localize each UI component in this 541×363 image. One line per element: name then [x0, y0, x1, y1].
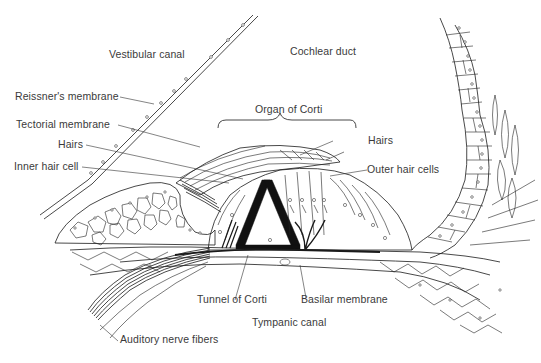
label-hairs-left: Hairs: [58, 139, 83, 150]
label-inner-hair-cell: Inner hair cell: [14, 161, 79, 172]
label-hairs-right: Hairs: [368, 135, 393, 146]
label-organ-of-corti: Organ of Corti: [255, 104, 322, 115]
label-reissners-membrane: Reissner's membrane: [15, 91, 119, 102]
label-auditory-nerve-fibers: Auditory nerve fibers: [120, 334, 218, 345]
label-tympanic-canal: Tympanic canal: [252, 317, 326, 328]
organ-of-corti-brace: [218, 113, 356, 128]
auditory-nerve-fibers-shape: [88, 248, 210, 338]
label-outer-hair-cells: Outer hair cells: [367, 164, 439, 175]
organ-of-corti-shape: [208, 168, 412, 250]
spiral-ligament-shape: [412, 18, 538, 258]
label-cochlear-duct: Cochlear duct: [290, 46, 356, 57]
diagram-artwork: [0, 0, 541, 363]
label-basilar-membrane: Basilar membrane: [301, 294, 388, 305]
reissners-membrane-shape: [40, 15, 258, 219]
label-tunnel-of-corti: Tunnel of Corti: [197, 294, 267, 305]
label-tectorial-membrane: Tectorial membrane: [16, 119, 110, 130]
label-vestibular-canal: Vestibular canal: [109, 49, 185, 60]
cochlea-diagram: Vestibular canal Cochlear duct Reissner'…: [0, 0, 541, 363]
